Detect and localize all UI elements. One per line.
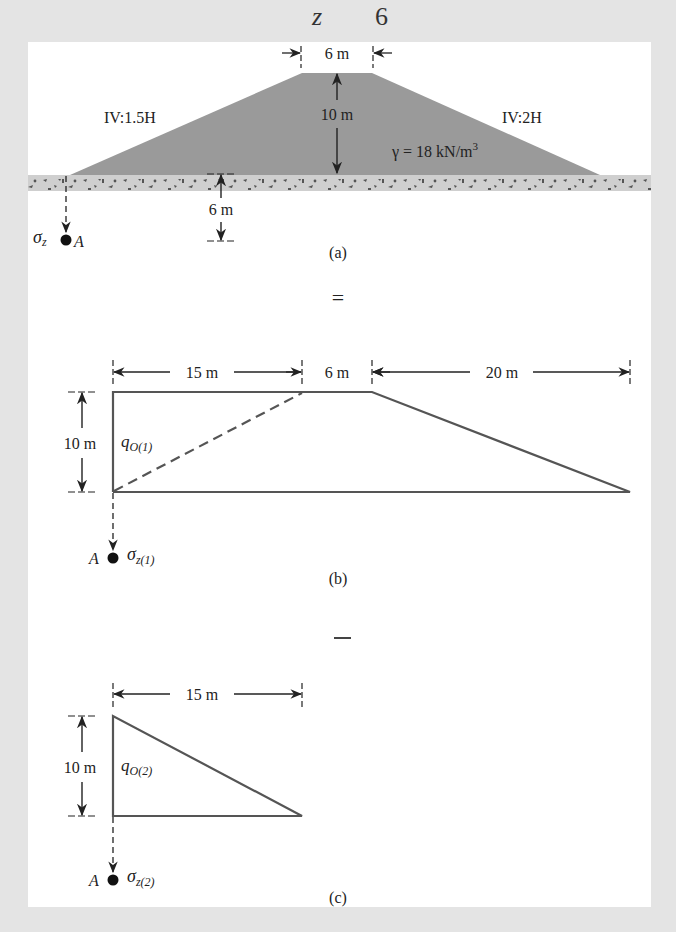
dim-20m-b: 20 m <box>373 364 629 381</box>
caption-c: (c) <box>329 889 347 907</box>
dim-middle-label-b: 6 m <box>325 364 350 381</box>
dim-15m-c: 15 m <box>114 686 301 703</box>
dim-left-label-b: 15 m <box>186 364 219 381</box>
height-dimension-c: 10 m <box>64 716 97 816</box>
equals-operator: = <box>332 285 344 310</box>
point-a-dot <box>61 235 72 246</box>
point-a-label: A <box>73 233 84 250</box>
point-a-stress-b: A σz(1) <box>88 493 155 567</box>
stress-label-a: σz <box>33 227 47 249</box>
load-label-b: qO(1) <box>121 432 152 454</box>
point-a-stress-c: A σz(2) <box>88 817 155 889</box>
stress-label-b: σz(1) <box>127 544 155 567</box>
top-width-dimension: 6 m <box>282 45 392 68</box>
figure-a: 6 m 10 m IV:1.5H IV:2H γ = 18 kN/m3 6 m … <box>28 45 651 262</box>
stress-label-c: σz(2) <box>127 866 155 889</box>
caption-a: (a) <box>329 244 347 262</box>
right-slope-label: IV:2H <box>502 109 542 126</box>
depth-label: 6 m <box>209 201 234 218</box>
figure-b: 15 m 6 m 20 m 10 m qO(1) A <box>64 360 630 588</box>
height-dimension-b: 10 m <box>64 392 97 492</box>
height-label-a: 10 m <box>321 106 354 123</box>
caption-b: (b) <box>329 570 348 588</box>
dim-15m-b: 15 m <box>114 364 301 381</box>
point-a-label-b: A <box>88 550 99 567</box>
top-width-label: 6 m <box>325 45 350 62</box>
figure-c: 15 m 10 m qO(2) A σz(2) (c) <box>64 683 347 907</box>
load-shape-b <box>113 392 630 492</box>
dim-right-label-b: 20 m <box>486 364 519 381</box>
left-slope-label: IV:1.5H <box>104 109 156 126</box>
unit-weight-label: γ = 18 kN/m3 <box>391 140 479 161</box>
embankment-stress-diagram: 6 m 10 m IV:1.5H IV:2H γ = 18 kN/m3 6 m … <box>0 0 676 932</box>
load-label-c: qO(2) <box>121 756 152 778</box>
point-a-label-c: A <box>88 872 99 889</box>
dim-label-c: 15 m <box>186 686 219 703</box>
ground-layer <box>28 175 651 191</box>
height-label-c: 10 m <box>64 759 97 776</box>
height-label-b: 10 m <box>64 435 97 452</box>
